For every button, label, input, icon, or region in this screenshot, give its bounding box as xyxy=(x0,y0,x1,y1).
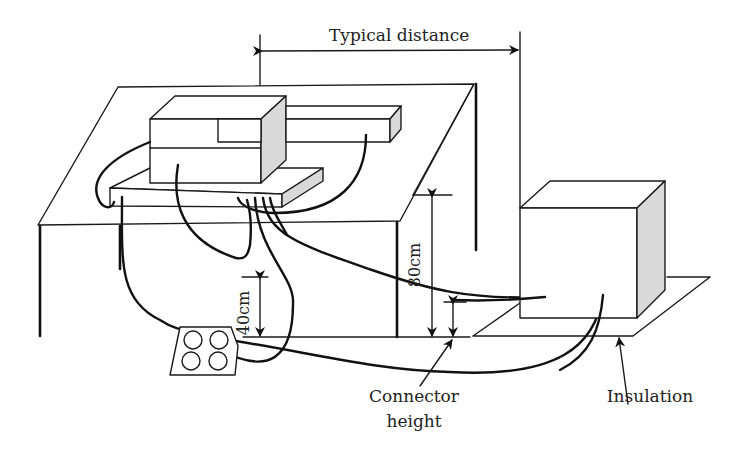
insulation-label: Insulation xyxy=(607,386,693,406)
height-40cm-dimension: 40cm xyxy=(234,277,268,336)
ground-connector-panel xyxy=(170,327,238,375)
height-80cm-dimension: 80cm xyxy=(405,195,452,336)
connector-height-label-line2: height xyxy=(386,411,441,431)
typical-distance-arrow xyxy=(262,50,518,51)
height-40cm-label: 40cm xyxy=(234,291,253,336)
side-bar-front-left xyxy=(218,119,261,142)
connector-height-label-line1: Connector xyxy=(369,386,460,406)
side-bar-top xyxy=(286,106,401,119)
test-setup-diagram: Typical distance xyxy=(0,0,738,457)
typical-distance-label: Typical distance xyxy=(329,25,469,45)
aux-box-front xyxy=(520,208,637,318)
connector-height-pointer xyxy=(420,340,452,386)
connector-panel-plate xyxy=(170,327,238,375)
side-bar-front-right xyxy=(286,119,390,142)
height-80cm-label: 80cm xyxy=(405,243,424,288)
